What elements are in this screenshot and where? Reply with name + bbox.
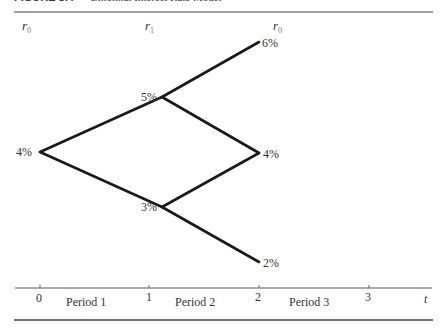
period-label-1: Period 1	[66, 296, 106, 308]
axis-variable-t: t	[424, 293, 427, 305]
tree-edges	[40, 42, 259, 262]
node-label-n2d: 2%	[263, 257, 279, 269]
header-r0: r0	[22, 19, 31, 35]
header-r1: r1	[145, 19, 154, 35]
edge-n1d-n2d	[162, 207, 259, 262]
tick-label-0: 0	[36, 292, 42, 304]
edge-n0-n1d	[40, 152, 162, 207]
node-label-n2u: 6%	[262, 37, 278, 49]
edge-n0-n1u	[40, 97, 162, 152]
edge-n1u-n2m	[162, 97, 259, 153]
tick-label-1: 1	[146, 291, 152, 303]
period-label-2: Period 2	[175, 296, 215, 308]
header-r2: r0	[273, 19, 282, 35]
edge-n1d-n2m	[162, 153, 259, 207]
node-label-n2m: 4%	[263, 148, 279, 160]
node-label-n1u: 5%	[141, 91, 157, 103]
period-label-3: Period 3	[289, 296, 329, 308]
tick-label-2: 2	[255, 291, 261, 303]
edge-n1u-n2u	[162, 42, 259, 97]
node-label-n1d: 3%	[141, 201, 157, 213]
binomial-tree-diagram	[0, 0, 445, 329]
node-label-n0: 4%	[16, 146, 32, 158]
tick-label-3: 3	[365, 291, 371, 303]
